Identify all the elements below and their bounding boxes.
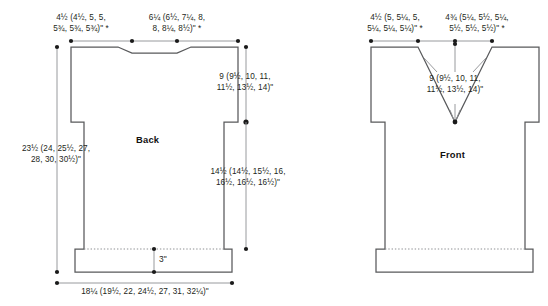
back-total-length-label: 23½ (24, 25½, 27, 28, 30, 30½)": [0, 144, 116, 165]
back-bottom-width-label: 18¼ (19½, 22, 24½, 27, 31, 32¼)": [55, 287, 235, 298]
front-neck-depth-label: 9 (9½, 10, 11, 11½, 13½, 14)": [400, 74, 510, 95]
back-hem-depth-label: 3": [159, 254, 167, 264]
back-top-dimension-line: [69, 39, 240, 43]
back-bottom-width-dimension: [55, 281, 234, 285]
back-hem-depth-dimension: [152, 247, 156, 274]
front-piece-title: Front: [440, 149, 465, 160]
back-piece-title: Back: [136, 134, 159, 145]
front-neck-width-label: 4¾ (5¼, 5½, 5¼, 5½, 5½, 5½)" *: [418, 13, 536, 34]
back-body-length-label: 14½ (14½, 15½, 16, 16½, 16½, 16½)": [184, 167, 312, 188]
back-armhole-depth-label: 9 (9½, 10, 11, 11½, 13½, 14)": [190, 72, 300, 93]
back-neck-width-label: 6¼ (6½, 7¼, 8, 8, 8¼, 8½)" *: [118, 13, 236, 34]
front-top-dimension-line: [369, 39, 494, 43]
schematic-diagram: 4½ (4½, 5, 5, 5¾, 5¾, 5¾)" * 6¼ (6½, 7¼,…: [0, 0, 548, 306]
